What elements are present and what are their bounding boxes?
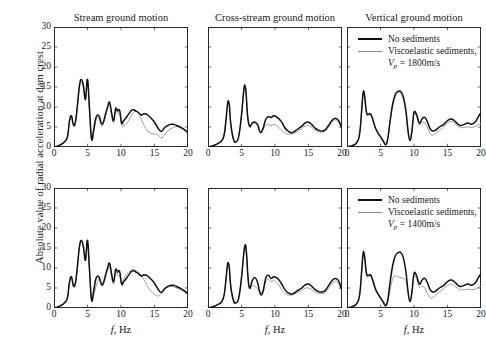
x-tick-label: 0 [52, 149, 57, 159]
legend-line-no-sediments-icon [357, 194, 383, 206]
vp-value: = 1400m/s [397, 219, 440, 229]
panel-curves [208, 188, 342, 308]
x-axis-unit: , Hz [114, 324, 132, 335]
curve-no-sediments [54, 79, 188, 147]
x-axis-unit: , Hz [268, 324, 286, 335]
y-tick-label: 30 [42, 22, 52, 32]
x-tick-label: 10 [116, 310, 126, 320]
x-tick-label: 15 [304, 149, 314, 159]
x-tick-label: 15 [443, 149, 453, 159]
x-tick-label: 10 [409, 310, 419, 320]
curve-no-sediments [347, 252, 481, 308]
panel-vertical-top: Vertical ground motion No sediments Visc… [347, 27, 481, 147]
panel-title: Stream ground motion [54, 12, 188, 23]
x-tick-label: 10 [116, 149, 126, 159]
panel-curves [54, 27, 188, 147]
panel-crossstream-bottom: f, Hz 05101520 [208, 188, 342, 308]
x-tick-label: 15 [304, 310, 314, 320]
x-tick-label: 5 [85, 149, 90, 159]
legend-entry: No sediments [357, 33, 477, 45]
x-tick-label: 5 [239, 149, 244, 159]
panel-curves [208, 27, 342, 147]
x-tick-label: 20 [183, 149, 193, 159]
curve-no-sediments [208, 245, 342, 308]
legend-label: Viscoelastic sediments, [388, 45, 477, 57]
x-tick-label: 0 [345, 149, 350, 159]
y-tick-label: 5 [46, 122, 51, 132]
panel-stream-top: Stream ground motion 0510152025300510152… [54, 27, 188, 147]
x-tick-label: 5 [378, 149, 383, 159]
legend-top-right: No sediments Viscoelastic sediments, Vp … [357, 33, 477, 73]
legend-label: No sediments [388, 33, 440, 45]
x-axis-label: f, Hz [208, 324, 342, 335]
y-tick-label: 10 [42, 263, 52, 273]
curve-no-sediments [54, 240, 188, 308]
panel-vertical-bottom: No sediments Viscoelastic sediments, Vp … [347, 188, 481, 308]
x-tick-label: 5 [85, 310, 90, 320]
legend-entry: Viscoelastic sediments, [357, 45, 477, 57]
legend-continuation: Vp = 1400m/s [388, 218, 477, 234]
legend-line-viscoelastic-icon [357, 45, 383, 57]
y-tick-label: 25 [42, 203, 52, 213]
legend-continuation: Vp = 1800m/s [388, 57, 477, 73]
legend-line-viscoelastic-icon [357, 206, 383, 218]
y-tick-label: 15 [42, 243, 52, 253]
panel-title: Vertical ground motion [347, 12, 481, 23]
x-tick-label: 20 [476, 310, 486, 320]
x-tick-label: 10 [270, 310, 280, 320]
vp-value: = 1800m/s [397, 58, 440, 68]
curve-no-sediments [208, 85, 342, 147]
x-tick-label: 5 [239, 310, 244, 320]
x-tick-label: 5 [378, 310, 383, 320]
curve-viscoelastic [347, 254, 481, 308]
x-axis-label: f, Hz [54, 324, 188, 335]
x-tick-label: 15 [443, 310, 453, 320]
panel-title: Cross-stream ground motion [208, 12, 342, 23]
x-tick-label: 0 [52, 310, 57, 320]
panel-stream-bottom: f, Hz 05101520253005101520 [54, 188, 188, 308]
x-tick-label: 15 [150, 310, 160, 320]
y-tick-label: 10 [42, 102, 52, 112]
x-tick-label: 0 [206, 149, 211, 159]
y-tick-label: 15 [42, 82, 52, 92]
legend-entry: Viscoelastic sediments, [357, 206, 477, 218]
x-tick-label: 10 [409, 149, 419, 159]
legend-line-no-sediments-icon [357, 33, 383, 45]
x-tick-label: 10 [270, 149, 280, 159]
y-tick-label: 20 [42, 62, 52, 72]
x-tick-label: 0 [345, 310, 350, 320]
y-tick-label: 30 [42, 183, 52, 193]
y-tick-label: 0 [46, 142, 51, 152]
x-tick-label: 0 [206, 310, 211, 320]
curve-viscoelastic [347, 90, 481, 147]
legend-label: No sediments [388, 194, 440, 206]
x-tick-label: 20 [183, 310, 193, 320]
legend-entry: No sediments [357, 194, 477, 206]
panel-curves [54, 188, 188, 308]
x-axis-unit: , Hz [407, 324, 425, 335]
y-tick-label: 5 [46, 283, 51, 293]
x-tick-label: 20 [476, 149, 486, 159]
legend-label: Viscoelastic sediments, [388, 206, 477, 218]
curve-no-sediments [347, 91, 481, 147]
panel-crossstream-top: Cross-stream ground motion 05101520 [208, 27, 342, 147]
y-tick-label: 25 [42, 42, 52, 52]
x-tick-label: 15 [150, 149, 160, 159]
legend-bottom-right: No sediments Viscoelastic sediments, Vp … [357, 194, 477, 234]
y-tick-label: 20 [42, 223, 52, 233]
y-tick-label: 0 [46, 303, 51, 313]
x-axis-label: f, Hz [347, 324, 481, 335]
